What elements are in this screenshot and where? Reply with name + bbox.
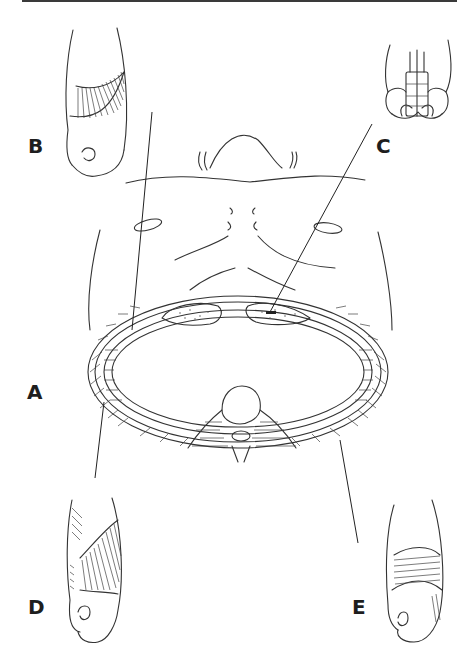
label-d: D: [28, 597, 45, 617]
anatomy-illustration: [0, 0, 473, 660]
panel-e-drawing: [386, 500, 442, 642]
label-b: B: [28, 136, 43, 156]
leader-c: [270, 124, 372, 312]
label-e: E: [352, 597, 366, 617]
leader-b: [132, 112, 152, 330]
panel-d-drawing: [67, 498, 121, 643]
label-a: A: [27, 382, 42, 402]
leader-e: [340, 440, 358, 543]
panel-b-drawing: [66, 28, 127, 176]
leader-d: [95, 402, 104, 478]
label-c: C: [376, 136, 391, 156]
panel-c-drawing: [386, 40, 451, 118]
